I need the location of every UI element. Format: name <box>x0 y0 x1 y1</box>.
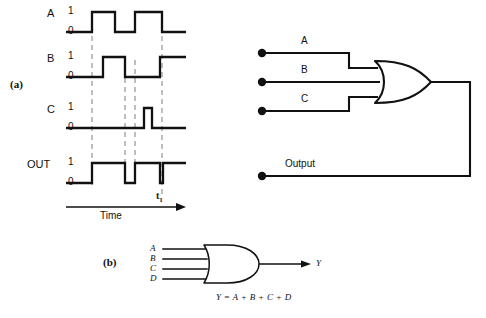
gate-input-label-c: C <box>301 93 308 104</box>
waveform-label-b: B <box>47 52 54 64</box>
waveform-b <box>66 57 186 77</box>
level-high-b: 1 <box>68 50 74 61</box>
level-high-a: 1 <box>68 5 74 16</box>
gate-b-input-label-a: A <box>150 243 156 253</box>
waveform-out <box>66 163 186 183</box>
wire-c <box>262 97 377 111</box>
level-low-out: 0 <box>68 176 74 187</box>
time-axis-arrow <box>66 203 186 211</box>
level-low-c: 0 <box>68 121 74 132</box>
level-low-a: 0 <box>68 25 74 36</box>
waveform-label-out: OUT <box>27 158 50 170</box>
wire-a <box>262 53 377 68</box>
time-axis-label: Time <box>100 210 122 221</box>
time-marker-t1: t1 <box>156 190 163 204</box>
input-terminals <box>258 49 266 180</box>
level-low-b: 0 <box>68 70 74 81</box>
waveform-label-c: C <box>47 103 55 115</box>
figure-canvas: (a) A B C OUT <box>0 0 486 318</box>
or-gate-body-b <box>204 245 259 283</box>
timing-diagram <box>0 0 210 225</box>
gate-output-label: Output <box>285 158 315 169</box>
waveform-label-a: A <box>47 7 54 19</box>
gate-input-label-b: B <box>301 64 308 75</box>
waveform-a <box>66 12 186 32</box>
wires-b-inputs <box>163 249 207 279</box>
panel-label-b: (b) <box>103 256 116 268</box>
wire-b-output <box>259 261 311 268</box>
or-gate-circuit-a <box>236 20 486 205</box>
gate-b-input-label-d: D <box>150 273 157 283</box>
level-high-out: 1 <box>68 156 74 167</box>
level-high-c: 1 <box>68 101 74 112</box>
gate-b-output-label-y: Y <box>316 258 321 268</box>
gate-b-input-label-b: B <box>150 253 156 263</box>
gate-b-input-label-c: C <box>150 263 156 273</box>
time-marker-subscript: 1 <box>159 196 163 204</box>
gate-input-label-a: A <box>301 35 308 46</box>
waveform-c <box>66 108 186 128</box>
or-gate-body-a <box>375 61 431 103</box>
boolean-equation: Y = A + B + C + D <box>216 292 292 302</box>
